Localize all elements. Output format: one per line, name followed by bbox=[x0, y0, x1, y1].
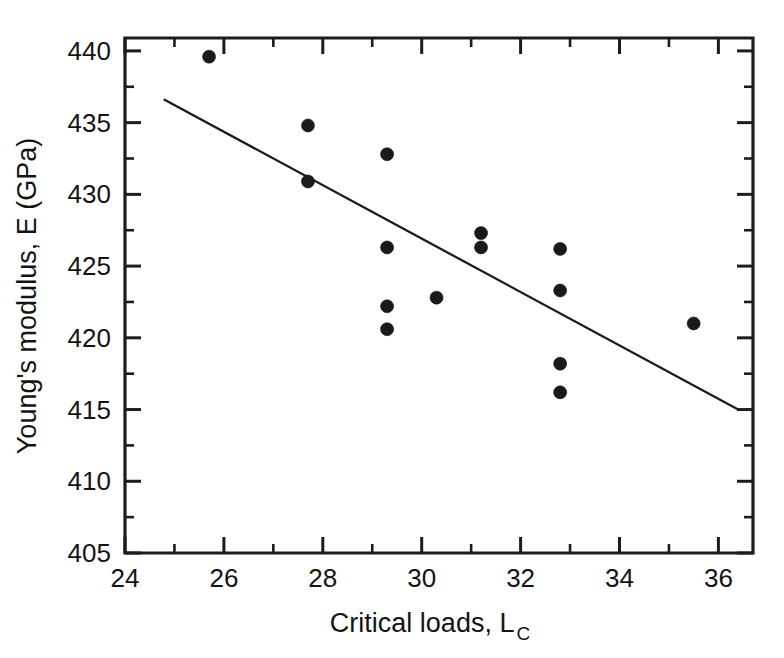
y-tick-label: 415 bbox=[68, 395, 111, 425]
y-axis-tick-labels: 405410415420425430435440 bbox=[68, 36, 111, 568]
x-axis-title-text: Critical loads, LC bbox=[330, 608, 530, 644]
data-point bbox=[554, 386, 567, 399]
y-tick-label: 435 bbox=[68, 108, 111, 138]
x-tick-label: 24 bbox=[111, 563, 140, 593]
x-tick-label: 34 bbox=[605, 563, 634, 593]
x-axis-title-main: Critical loads, L bbox=[330, 608, 515, 638]
data-point bbox=[381, 300, 394, 313]
data-point bbox=[381, 323, 394, 336]
x-axis-major-ticks bbox=[125, 38, 718, 553]
y-tick-label: 405 bbox=[68, 538, 111, 568]
data-point bbox=[687, 317, 700, 330]
x-axis-title: Critical loads, LC bbox=[330, 608, 530, 644]
data-point bbox=[203, 50, 216, 63]
x-tick-label: 32 bbox=[506, 563, 535, 593]
data-point bbox=[381, 241, 394, 254]
y-tick-label: 425 bbox=[68, 251, 111, 281]
regression-line bbox=[165, 100, 739, 410]
data-point bbox=[381, 148, 394, 161]
y-tick-label: 430 bbox=[68, 179, 111, 209]
x-tick-label: 30 bbox=[407, 563, 436, 593]
x-axis-tick-labels: 24262830323436 bbox=[111, 563, 733, 593]
x-axis-title-subscript: C bbox=[516, 623, 530, 644]
chart-figure: 405410415420425430435440 24262830323436 … bbox=[0, 0, 784, 658]
data-point bbox=[430, 291, 443, 304]
data-point bbox=[554, 284, 567, 297]
y-tick-label: 420 bbox=[68, 323, 111, 353]
y-tick-label: 410 bbox=[68, 466, 111, 496]
x-axis-minor-ticks bbox=[174, 38, 668, 553]
data-point bbox=[301, 175, 314, 188]
x-tick-label: 26 bbox=[209, 563, 238, 593]
scatter-plot: 405410415420425430435440 24262830323436 … bbox=[0, 0, 784, 658]
data-point bbox=[475, 227, 488, 240]
data-point bbox=[554, 242, 567, 255]
data-point bbox=[301, 119, 314, 132]
data-points bbox=[203, 50, 701, 399]
trend-line bbox=[165, 100, 739, 410]
x-tick-label: 28 bbox=[308, 563, 337, 593]
x-tick-label: 36 bbox=[704, 563, 733, 593]
data-point bbox=[475, 241, 488, 254]
y-tick-label: 440 bbox=[68, 36, 111, 66]
y-axis-title-text: Young's modulus, E (GPa) bbox=[12, 138, 42, 454]
y-axis-title: Young's modulus, E (GPa) bbox=[12, 138, 42, 454]
data-point bbox=[554, 357, 567, 370]
